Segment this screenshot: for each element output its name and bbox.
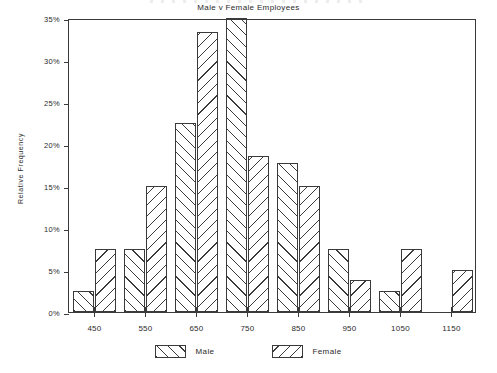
legend-swatch-female	[272, 345, 303, 358]
bar-female-650	[197, 32, 218, 312]
y-tick-label: 30%	[44, 57, 60, 66]
bar-female-750	[248, 156, 269, 312]
y-tick-mark	[64, 314, 69, 315]
y-tick-label: 25%	[44, 99, 60, 108]
x-tick-mark	[298, 312, 299, 317]
y-tick-mark	[64, 230, 69, 231]
y-tick-label: 0%	[49, 309, 60, 318]
x-tick-label: 1050	[391, 324, 410, 333]
bar-male-650	[175, 123, 196, 312]
y-tick-mark	[64, 272, 69, 273]
y-tick-label: 35%	[44, 15, 60, 24]
y-tick-mark	[64, 146, 69, 147]
x-tick-mark	[451, 312, 452, 317]
legend-item-female[interactable]: Female	[272, 345, 341, 358]
y-axis-title: Relative Frequency	[17, 89, 24, 249]
chart-legend: MaleFemale	[0, 345, 497, 358]
y-tick-mark	[64, 62, 69, 63]
x-tick-label: 1150	[442, 324, 460, 333]
y-tick-mark	[64, 20, 69, 21]
bar-female-1150	[452, 270, 473, 312]
bar-female-550	[146, 186, 167, 312]
x-tick-mark	[400, 312, 401, 317]
x-tick-mark	[196, 312, 197, 317]
legend-label-male: Male	[195, 347, 214, 356]
chart-figure: Male v Female Employees Relative Frequen…	[0, 0, 497, 373]
y-tick-mark	[64, 104, 69, 105]
y-tick-label: 10%	[44, 225, 60, 234]
x-tick-label: 550	[138, 324, 152, 333]
legend-item-male[interactable]: Male	[155, 345, 214, 358]
legend-label-female: Female	[312, 347, 341, 356]
y-tick-label: 20%	[44, 141, 60, 150]
x-tick-label: 650	[189, 324, 203, 333]
bar-female-950	[350, 280, 371, 312]
bar-male-750	[226, 18, 247, 312]
bar-male-950	[328, 249, 349, 312]
plot-area: 0%5%10%15%20%25%30%35% 45055065075085095…	[68, 19, 476, 313]
legend-swatch-male	[155, 345, 186, 358]
x-tick-mark	[145, 312, 146, 317]
bar-male-850	[277, 163, 298, 312]
y-tick-label: 5%	[49, 267, 60, 276]
x-tick-label: 850	[291, 324, 305, 333]
bar-male-450	[73, 291, 94, 312]
bar-female-450	[95, 249, 116, 312]
x-tick-mark	[247, 312, 248, 317]
bar-female-1050	[401, 249, 422, 312]
bar-female-850	[299, 186, 320, 312]
x-tick-mark	[94, 312, 95, 317]
x-tick-mark	[349, 312, 350, 317]
x-tick-label: 750	[240, 324, 254, 333]
bar-male-1050	[379, 291, 400, 312]
y-tick-label: 15%	[44, 183, 60, 192]
bar-male-550	[124, 249, 145, 312]
chart-title: Male v Female Employees	[0, 3, 497, 12]
x-tick-label: 950	[342, 324, 356, 333]
x-tick-label: 450	[87, 324, 101, 333]
y-tick-mark	[64, 188, 69, 189]
